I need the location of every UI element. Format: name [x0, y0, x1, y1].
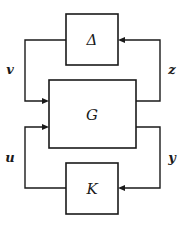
plant-block: G [49, 80, 136, 148]
signal-z-label: z [167, 62, 176, 77]
signal-u-label: u [5, 150, 14, 165]
arrow-u-icon [42, 124, 49, 130]
block-diagram: Δ G K v z u y [0, 0, 187, 225]
delta-block: Δ [66, 14, 118, 65]
arrow-y-icon [118, 185, 125, 191]
delta-label: Δ [86, 31, 98, 49]
signal-y-label: y [167, 150, 177, 165]
arrow-z-icon [118, 37, 125, 43]
controller-block: K [66, 163, 118, 214]
plant-label: G [86, 106, 98, 124]
signal-v-label: v [6, 62, 14, 77]
arrow-v-icon [42, 98, 49, 104]
controller-label: K [85, 180, 98, 198]
